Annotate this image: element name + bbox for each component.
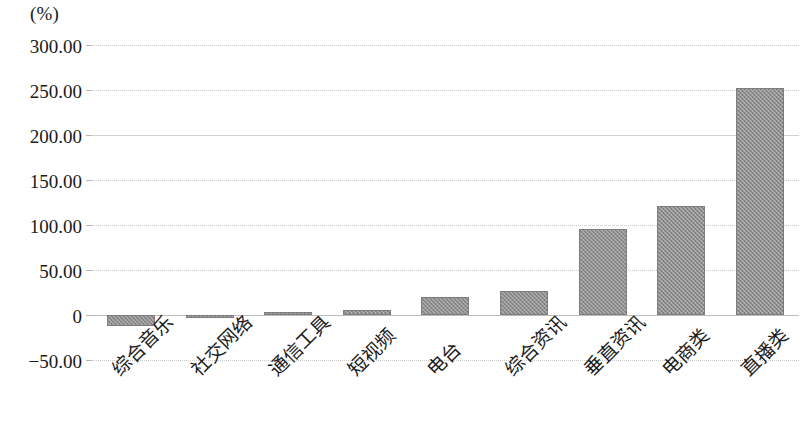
bar-slot: [92, 45, 171, 360]
y-axis-tick-label: 100.00: [0, 217, 82, 236]
bar[interactable]: [657, 206, 705, 315]
y-axis-unit-label: (%): [30, 4, 59, 24]
y-axis-tick-label: 50.00: [0, 262, 82, 281]
bar-chart: (%) 300.00250.00200.00150.00100.0050.000…: [0, 0, 807, 441]
y-axis-tick-label: −50.00: [0, 352, 82, 371]
bar-slot: [642, 45, 721, 360]
bar-slot: [563, 45, 642, 360]
bar[interactable]: [264, 312, 312, 315]
y-axis-tick-label: 250.00: [0, 82, 82, 101]
bar-slot: [720, 45, 799, 360]
bar[interactable]: [579, 229, 627, 315]
y-axis-tick-label: 200.00: [0, 127, 82, 146]
bar[interactable]: [186, 315, 234, 318]
y-axis-tick-label: 0: [0, 307, 82, 326]
bar-slot: [406, 45, 485, 360]
bar-slot: [328, 45, 407, 360]
bar[interactable]: [421, 297, 469, 315]
bar-slot: [171, 45, 250, 360]
bar[interactable]: [736, 88, 784, 315]
plot-area: 300.00250.00200.00150.00100.0050.000−50.…: [92, 45, 799, 360]
bar[interactable]: [343, 310, 391, 315]
y-axis-tick-label: 300.00: [0, 37, 82, 56]
bar[interactable]: [500, 291, 548, 315]
x-axis-labels-group: 综合音乐社交网络通信工具短视频电台综合资讯垂直资讯电商类直播类: [92, 360, 799, 441]
y-axis-tick-label: 150.00: [0, 172, 82, 191]
bar-slot: [485, 45, 564, 360]
bars-group: [92, 45, 799, 360]
